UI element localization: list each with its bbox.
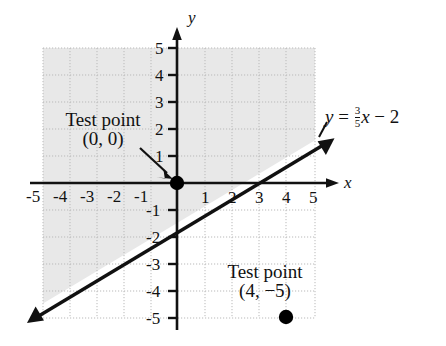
y-axis-label: y — [188, 9, 196, 26]
x-tick-label--3: -3 — [80, 188, 94, 205]
y-tick-label--2: -2 — [146, 229, 160, 246]
annotation-test-point-origin: Test point (0, 0) — [48, 110, 158, 148]
y-tick-label-4: 4 — [155, 67, 164, 84]
annotation-test-point-4-neg5-line2: (4, −5) — [205, 281, 325, 300]
y-tick-label--4: -4 — [146, 283, 160, 300]
equation-constant: 2 — [390, 106, 400, 127]
annotation-test-point-4-neg5: Test point (4, −5) — [205, 262, 325, 300]
x-tick-label-1: 1 — [201, 189, 210, 206]
y-tick-label-5: 5 — [155, 40, 164, 57]
y-tick-label-3: 3 — [155, 94, 164, 111]
annotation-test-point-4-neg5-line1: Test point — [227, 261, 302, 282]
x-tick-label--4: -4 — [53, 188, 67, 205]
test-point-dot-origin — [170, 176, 184, 190]
equation-equals: = — [338, 106, 349, 127]
x-tick-label-4: 4 — [282, 189, 291, 206]
x-axis-label: x — [344, 174, 352, 191]
x-tick-label-3: 3 — [255, 189, 264, 206]
y-tick-label--5: -5 — [146, 310, 160, 327]
y-tick-label--1: -1 — [146, 202, 160, 219]
x-tick-label--2: -2 — [107, 188, 121, 205]
equation-variable: x — [361, 106, 369, 127]
equation-label: y = 35x − 2 — [325, 105, 399, 129]
y-tick-label-1: 1 — [155, 148, 164, 165]
annotation-test-point-origin-line2: (0, 0) — [48, 129, 158, 148]
y-tick-label--3: -3 — [146, 256, 160, 273]
x-tick-label--5: -5 — [26, 188, 40, 205]
annotation-test-point-origin-line1: Test point — [65, 109, 140, 130]
equation-fraction-numerator: 3 — [355, 105, 361, 117]
x-tick-label-2: 2 — [228, 189, 237, 206]
equation-fraction-denominator: 5 — [355, 117, 361, 130]
x-tick-label-5: 5 — [309, 189, 318, 206]
equation-fraction: 35 — [355, 105, 361, 129]
test-point-dot-4-neg5 — [279, 310, 293, 324]
equation-minus: − — [374, 106, 385, 127]
